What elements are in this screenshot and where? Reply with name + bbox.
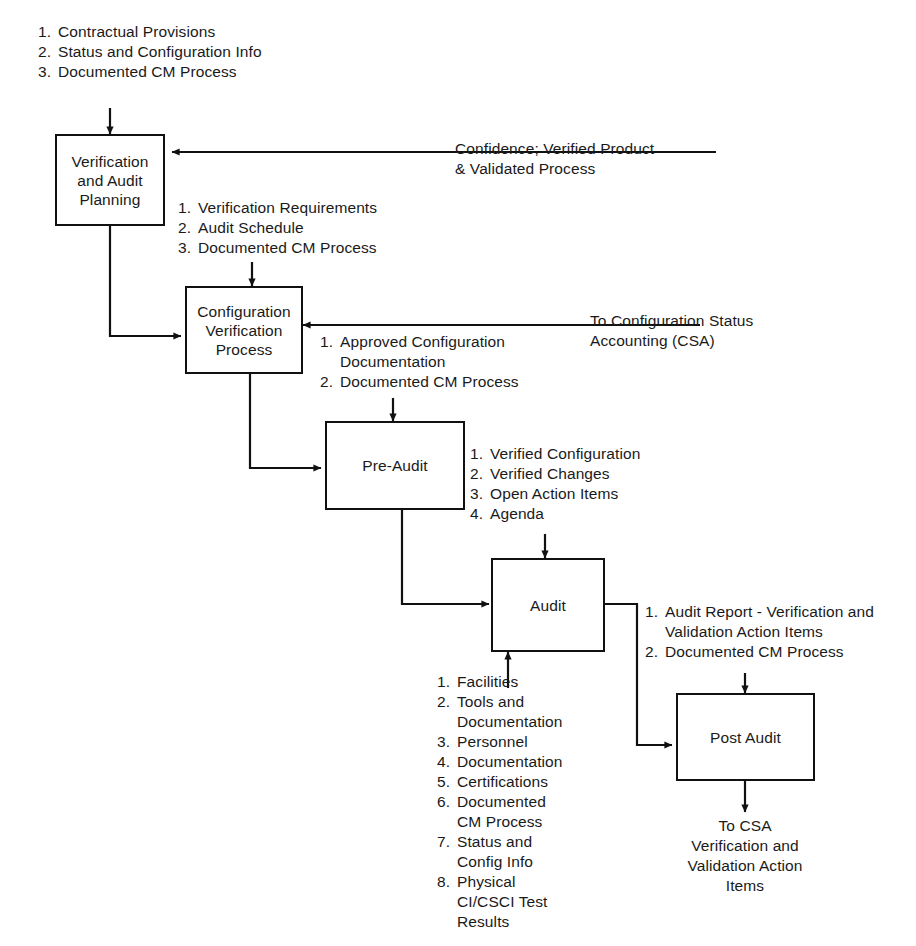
list-item-label: Audit Schedule — [198, 218, 428, 238]
list-item-label: Agenda — [490, 504, 700, 524]
wire-planning-to-verification — [110, 226, 181, 336]
list-item-number: 1. — [38, 22, 51, 42]
list-item-label: Status and Config Info — [457, 832, 572, 872]
list-item-number: 1. — [437, 672, 450, 692]
list-item: 2.Documented CM Process — [645, 642, 907, 662]
list-item-number: 2. — [320, 372, 333, 392]
list-item: 1.Verified Configuration — [470, 444, 700, 464]
list-audit-outputs: 1.Audit Report - Verification and Valida… — [645, 602, 907, 662]
annotation-to-csa: To Configuration Status Accounting (CSA) — [590, 311, 810, 351]
list-item: 7.Status and Config Info — [437, 832, 572, 872]
list-item: 3.Documented CM Process — [38, 62, 268, 82]
list-item-label: Verified Changes — [490, 464, 700, 484]
list-item-number: 5. — [437, 772, 450, 792]
list-item-label: Physical CI/CSCI Test Results — [457, 872, 572, 932]
list-item-label: Certifications — [457, 772, 572, 792]
list-item: 3.Personnel — [437, 732, 572, 752]
list-item-label: Documented CM Process — [58, 62, 268, 82]
list-item-label: Documented CM Process — [340, 372, 564, 392]
list-item-label: Open Action Items — [490, 484, 700, 504]
list-item-label: Documented CM Process — [457, 792, 572, 832]
list-item-number: 6. — [437, 792, 450, 812]
list-item-number: 4. — [437, 752, 450, 772]
node-label: Post Audit — [707, 728, 784, 747]
annotation-post-audit-output: To CSA Verification and Validation Actio… — [645, 816, 845, 896]
list-item-label: Audit Report - Verification and Validati… — [665, 602, 907, 642]
list-item: 2.Verified Changes — [470, 464, 700, 484]
list-item: 2.Tools and Documentation — [437, 692, 572, 732]
list-item-number: 2. — [437, 692, 450, 712]
list-item-number: 3. — [437, 732, 450, 752]
list-item-number: 2. — [38, 42, 51, 62]
list-item-number: 1. — [470, 444, 483, 464]
node-label: Configuration Verification Process — [187, 302, 301, 359]
list-item-number: 3. — [470, 484, 483, 504]
list-item: 3.Documented CM Process — [178, 238, 428, 258]
list-item-number: 2. — [178, 218, 191, 238]
list-item-number: 2. — [645, 642, 658, 662]
list-item-label: Approved Configuration Documentation — [340, 332, 564, 372]
list-item: 4.Agenda — [470, 504, 700, 524]
node-audit[interactable]: Audit — [491, 558, 605, 652]
list-item-number: 4. — [470, 504, 483, 524]
list-item-number: 3. — [38, 62, 51, 82]
list-item: 1.Contractual Provisions — [38, 22, 268, 42]
node-post-audit[interactable]: Post Audit — [676, 693, 815, 781]
list-item: 1.Approved Configuration Documentation — [320, 332, 564, 372]
list-item-label: Contractual Provisions — [58, 22, 268, 42]
list-audit-inputs: 1.Facilities2.Tools and Documentation3.P… — [437, 672, 572, 932]
node-pre-audit[interactable]: Pre-Audit — [325, 421, 465, 510]
list-item-number: 3. — [178, 238, 191, 258]
list-item-label: Documented CM Process — [665, 642, 907, 662]
list-item: 1.Verification Requirements — [178, 198, 428, 218]
list-item: 8.Physical CI/CSCI Test Results — [437, 872, 572, 932]
list-item: 5.Certifications — [437, 772, 572, 792]
list-item: 1.Audit Report - Verification and Valida… — [645, 602, 907, 642]
list-item-label: Verified Configuration — [490, 444, 700, 464]
annotation-confidence-feedback: Confidence; Verified Product & Validated… — [455, 139, 705, 179]
flowchart-canvas: Verification and Audit Planning Configur… — [0, 0, 916, 946]
list-item-label: Tools and Documentation — [457, 692, 572, 732]
list-item-label: Status and Configuration Info — [58, 42, 268, 62]
list-item: 6.Documented CM Process — [437, 792, 572, 832]
list-pre-audit-outputs: 1.Verified Configuration2.Verified Chang… — [470, 444, 700, 524]
list-item: 2.Status and Configuration Info — [38, 42, 268, 62]
node-configuration-verification-process[interactable]: Configuration Verification Process — [185, 286, 303, 374]
list-item-number: 7. — [437, 832, 450, 852]
node-verification-and-audit-planning[interactable]: Verification and Audit Planning — [55, 134, 165, 226]
list-item: 4.Documentation — [437, 752, 572, 772]
list-item-label: Personnel — [457, 732, 572, 752]
list-verification-outputs: 1.Approved Configuration Documentation2.… — [320, 332, 564, 392]
list-item: 2.Documented CM Process — [320, 372, 564, 392]
node-label: Verification and Audit Planning — [57, 152, 163, 209]
list-item-number: 8. — [437, 872, 450, 892]
list-planning-outputs: 1.Verification Requirements2.Audit Sched… — [178, 198, 428, 258]
list-item-label: Facilities — [457, 672, 572, 692]
list-item-number: 1. — [645, 602, 658, 622]
list-item: 1.Facilities — [437, 672, 572, 692]
list-planning-inputs: 1.Contractual Provisions2.Status and Con… — [38, 22, 268, 82]
list-item: 3.Open Action Items — [470, 484, 700, 504]
list-item-label: Documentation — [457, 752, 572, 772]
list-item-label: Verification Requirements — [198, 198, 428, 218]
list-item-number: 1. — [178, 198, 191, 218]
list-item: 2.Audit Schedule — [178, 218, 428, 238]
node-label: Pre-Audit — [359, 456, 431, 475]
wire-preaudit-to-audit — [402, 510, 489, 604]
list-item-number: 2. — [470, 464, 483, 484]
list-item-number: 1. — [320, 332, 333, 352]
node-label: Audit — [527, 596, 569, 615]
wire-verification-to-preaudit — [250, 374, 321, 468]
list-item-label: Documented CM Process — [198, 238, 428, 258]
